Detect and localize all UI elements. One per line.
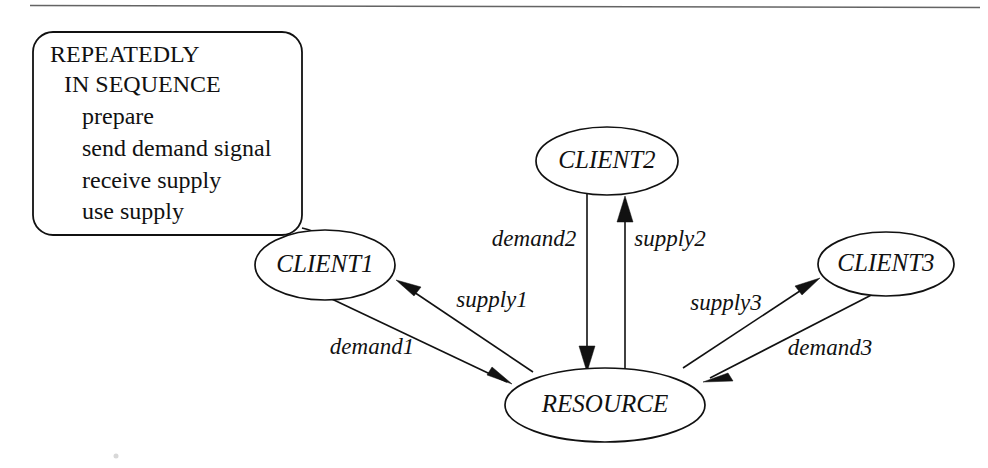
edge-demand1-arrowhead [487,367,512,384]
edge-supply2-label: supply2 [634,226,706,251]
note-line-3: send demand signal [82,135,272,161]
diagram-canvas: REPEATEDLY IN SEQUENCE prepare send dema… [0,0,988,468]
edge-demand3-label: demand3 [788,335,872,360]
page-rule [30,6,980,8]
edge-demand1-label: demand1 [330,334,414,359]
edge-demand2-label: demand2 [492,226,576,251]
node-resource-label: RESOURCE [541,390,668,417]
edge-supply1: supply1 [396,280,533,372]
diagram-svg: REPEATEDLY IN SEQUENCE prepare send dema… [0,0,988,468]
note-line-5: use supply [82,198,184,224]
node-client1-label: CLIENT1 [276,250,373,277]
node-client2[interactable]: CLIENT2 [536,127,678,195]
scan-speck [114,454,119,459]
node-client1[interactable]: CLIENT1 [255,230,395,300]
note-line-1: IN SEQUENCE [64,71,221,97]
node-client2-label: CLIENT2 [558,146,655,173]
note-line-4: receive supply [82,167,221,193]
node-client3[interactable]: CLIENT3 [818,232,954,296]
note-box: REPEATEDLY IN SEQUENCE prepare send dema… [33,32,302,235]
edge-supply3-label: supply3 [690,290,762,315]
node-client3-label: CLIENT3 [837,249,934,276]
edge-supply1-label: supply1 [456,287,528,312]
note-line-0: REPEATEDLY [50,41,200,67]
edge-supply2: supply2 [617,196,706,375]
edge-supply2-arrowhead [617,196,633,222]
edge-demand2: demand2 [492,194,595,372]
note-line-2: prepare [82,103,154,129]
node-resource[interactable]: RESOURCE [505,368,705,442]
